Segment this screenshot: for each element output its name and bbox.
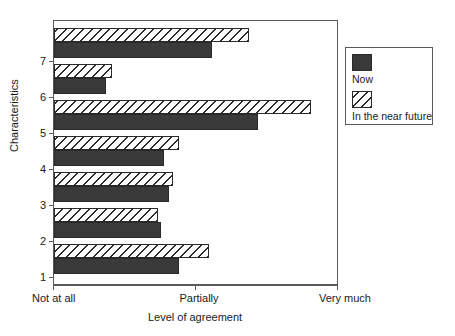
x-tick-label-partially: Partially (179, 293, 218, 304)
legend-swatch-future (352, 91, 372, 108)
y-tick-1 (49, 277, 54, 278)
bar-now-1 (54, 258, 179, 274)
y-axis-title: Characteristics (9, 79, 20, 152)
y-tick-6 (49, 97, 54, 98)
bar-now-6 (54, 78, 106, 94)
x-axis-title: Level of agreement (148, 312, 242, 323)
bar-future-2 (54, 208, 158, 222)
bar-future-7 (54, 28, 249, 42)
bar-future-6 (54, 64, 112, 78)
bar-now-7 (54, 42, 212, 58)
bar-future-3 (54, 172, 173, 186)
bar-future-4 (54, 136, 179, 150)
y-tick-7 (49, 61, 54, 62)
x-tick-1 (195, 285, 196, 290)
y-tick-2 (49, 241, 54, 242)
legend-label-future: In the near future (352, 111, 427, 122)
bar-now-5 (54, 114, 258, 130)
legend: Now In the near future (345, 47, 433, 125)
y-tick-label-4: 4 (40, 164, 46, 175)
y-tick-label-7: 7 (40, 56, 46, 67)
y-tick-3 (49, 205, 54, 206)
plot-area: 7 6 5 4 3 2 1 (53, 20, 338, 285)
y-tick-label-5: 5 (40, 128, 46, 139)
x-tick-label-not-at-all: Not at all (32, 293, 75, 304)
y-tick-4 (49, 169, 54, 170)
y-tick-label-6: 6 (40, 92, 46, 103)
bar-future-1 (54, 244, 209, 258)
bar-now-2 (54, 222, 161, 238)
bar-future-5 (54, 100, 311, 114)
y-tick-label-3: 3 (40, 200, 46, 211)
y-tick-label-1: 1 (40, 272, 46, 283)
bar-now-4 (54, 150, 164, 166)
y-tick-5 (49, 133, 54, 134)
legend-swatch-now (352, 54, 372, 71)
legend-label-now: Now (352, 74, 427, 85)
bar-chart: 7 6 5 4 3 2 1 Characteristics (0, 0, 455, 336)
x-tick-2 (337, 285, 338, 290)
y-tick-label-2: 2 (40, 236, 46, 247)
x-tick-label-very-much: Very much (319, 293, 371, 304)
x-tick-0 (53, 285, 54, 290)
bar-now-3 (54, 186, 169, 202)
